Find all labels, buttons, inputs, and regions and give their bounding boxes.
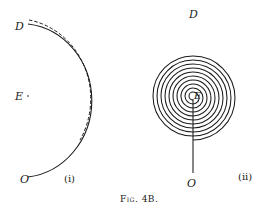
panel-i-label: (i) (64, 174, 75, 184)
label-e-ii: E (194, 91, 201, 101)
point-e-dot (27, 95, 29, 97)
label-d-ii: D (189, 9, 198, 20)
panel-i-arcs (28, 20, 92, 177)
solid-arc (28, 24, 92, 177)
dashed-arc (29, 20, 91, 140)
spiral (153, 56, 235, 173)
label-o-ii: O (187, 178, 196, 189)
panel-ii-label: (ii) (238, 172, 252, 182)
label-d-i: D (15, 21, 24, 32)
label-o-i: O (20, 174, 29, 185)
figure-caption: Fig. 4B. (120, 195, 158, 204)
label-e-i: E (15, 91, 23, 102)
figure-drawing (0, 0, 276, 213)
